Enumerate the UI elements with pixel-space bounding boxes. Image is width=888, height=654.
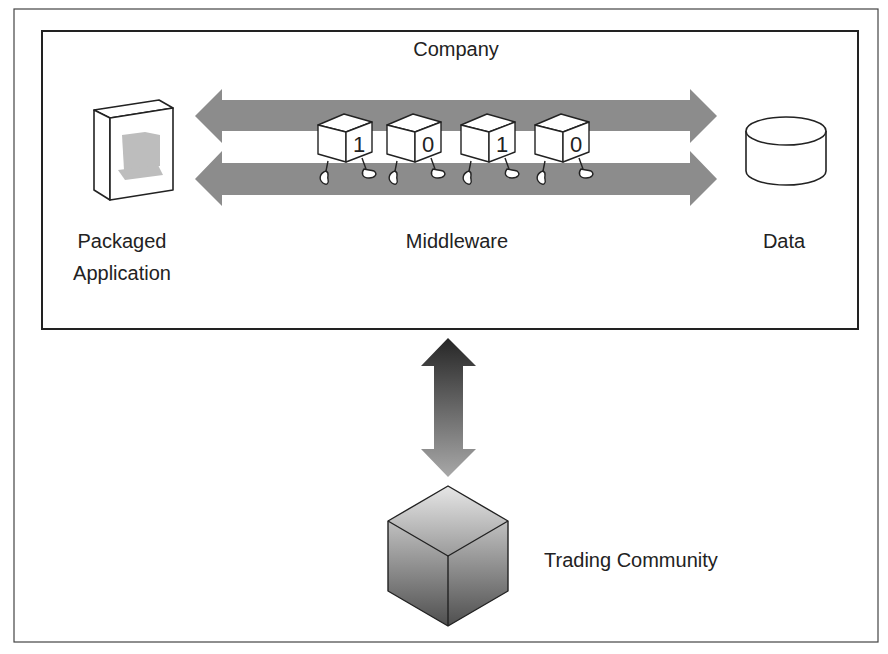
packaged-app-label-line2: Application: [52, 262, 192, 284]
middleware-label: Middleware: [382, 230, 532, 252]
foot: [362, 169, 375, 178]
foot: [431, 169, 444, 178]
bit-value: 1: [496, 132, 508, 157]
foot: [579, 169, 592, 178]
database-cylinder-icon: [746, 117, 826, 185]
exchange-arrow: [421, 338, 476, 477]
company-label: Company: [392, 38, 520, 60]
foot: [505, 169, 518, 178]
middleware-arrow-bottom: [195, 151, 717, 206]
data-label: Data: [744, 230, 824, 252]
middleware-arrow-top: [195, 89, 717, 143]
packaged-app-label-line1: Packaged: [52, 230, 192, 252]
bit-value: 0: [570, 132, 582, 157]
bit-value: 1: [353, 132, 365, 157]
diagram-canvas: 1010: [0, 0, 888, 654]
bit-value: 0: [422, 132, 434, 157]
cube-icon: [388, 486, 508, 626]
software-box-icon: [94, 100, 173, 200]
trading-community-label: Trading Community: [544, 549, 718, 571]
